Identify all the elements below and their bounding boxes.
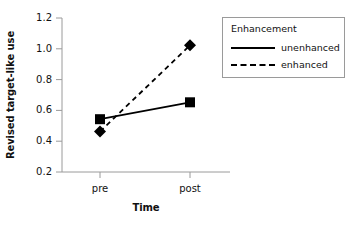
series-unenhanced-line <box>100 102 190 119</box>
series-unenhanced <box>95 97 195 124</box>
series-unenhanced-marker <box>185 97 195 107</box>
x-tick-label-pre: pre <box>80 184 120 194</box>
y-tick-label: 0.4 <box>26 136 52 146</box>
chart-legend: Enhancement unenhanced enhanced <box>222 17 345 78</box>
legend-label: enhanced <box>281 60 328 70</box>
x-axis-title: Time <box>62 203 230 213</box>
y-tick-label: 0.6 <box>26 105 52 115</box>
series-enhanced <box>94 39 196 137</box>
y-tick-label: 0.2 <box>26 167 52 177</box>
legend-swatch-solid-line <box>231 47 275 49</box>
legend-entry-enhanced: enhanced <box>231 58 328 72</box>
y-tick-label: 1.0 <box>26 44 52 54</box>
x-axis-ticks <box>100 172 190 178</box>
y-tick-label: 0.8 <box>26 75 52 85</box>
series-unenhanced-marker <box>95 114 105 124</box>
legend-title: Enhancement <box>231 24 297 34</box>
x-tick-label-post: post <box>170 184 210 194</box>
legend-label: unenhanced <box>281 43 340 53</box>
series-enhanced-line <box>100 45 190 131</box>
legend-swatch-dashed-line <box>231 64 275 66</box>
legend-entry-unenhanced: unenhanced <box>231 41 340 55</box>
y-axis-ticks <box>56 18 62 172</box>
series-enhanced-marker <box>94 126 106 138</box>
y-tick-label: 1.2 <box>26 13 52 23</box>
chart-figure: Revised target-like use <box>0 0 357 228</box>
